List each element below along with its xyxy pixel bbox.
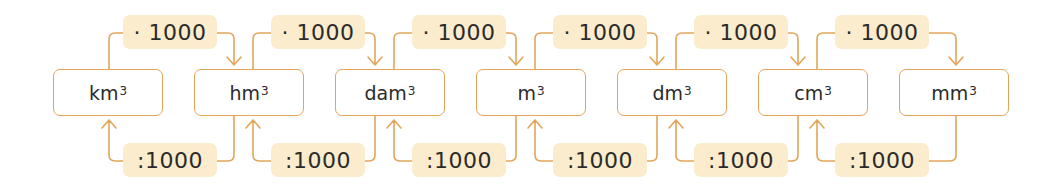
unit-box-mm3: mm3: [899, 69, 1009, 116]
volume-unit-conversion-diagram: km3 hm3 dam3 m3 dm3 cm3 mm3 · 1000 · 100…: [0, 0, 1057, 186]
divide-label-mm3-cm3: :1000: [835, 143, 929, 177]
divide-label-m3-dam3: :1000: [412, 143, 506, 177]
unit-base: cm: [794, 82, 823, 104]
unit-base: hm: [229, 82, 260, 104]
multiply-label-km3-hm3: · 1000: [123, 15, 217, 49]
unit-box-dam3: dam3: [335, 69, 445, 116]
unit-base: dm: [652, 82, 683, 104]
multiply-label-cm3-mm3: · 1000: [835, 15, 929, 49]
unit-exponent: 3: [408, 84, 416, 98]
multiply-label-dam3-m3: · 1000: [412, 15, 506, 49]
multiply-label-m3-dm3: · 1000: [553, 15, 647, 49]
unit-exponent: 3: [261, 84, 269, 98]
unit-base: km: [89, 82, 119, 104]
unit-exponent: 3: [684, 84, 692, 98]
unit-exponent: 3: [824, 84, 832, 98]
unit-base: m: [517, 82, 536, 104]
multiply-label-hm3-dam3: · 1000: [271, 15, 365, 49]
unit-exponent: 3: [969, 84, 977, 98]
divide-label-cm3-dm3: :1000: [694, 143, 788, 177]
unit-box-dm3: dm3: [617, 69, 727, 116]
divide-label-dm3-m3: :1000: [553, 143, 647, 177]
multiply-label-dm3-cm3: · 1000: [694, 15, 788, 49]
divide-label-dam3-hm3: :1000: [271, 143, 365, 177]
unit-box-cm3: cm3: [758, 69, 868, 116]
unit-exponent: 3: [119, 84, 127, 98]
unit-box-m3: m3: [476, 69, 586, 116]
unit-base: mm: [931, 82, 968, 104]
unit-box-hm3: hm3: [194, 69, 304, 116]
divide-label-hm3-km3: :1000: [123, 143, 217, 177]
unit-base: dam: [365, 82, 407, 104]
unit-exponent: 3: [537, 84, 545, 98]
unit-box-km3: km3: [53, 69, 163, 116]
